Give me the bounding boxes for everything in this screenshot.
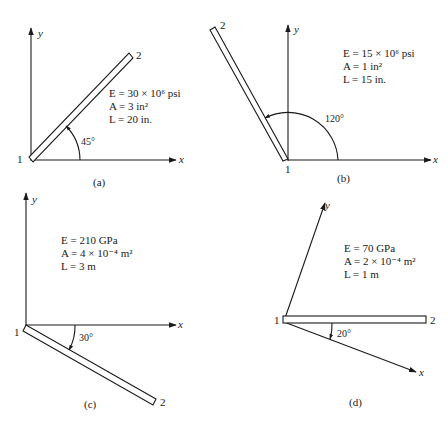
svg-text:E = 30 × 10⁶ psi: E = 30 × 10⁶ psi — [109, 87, 181, 99]
node-2-label: 2 — [136, 49, 142, 61]
svg-text:L = 3 m: L = 3 m — [61, 260, 96, 272]
y-axis — [284, 203, 325, 321]
y-axis-label: y — [37, 27, 43, 39]
bar-element — [210, 27, 288, 161]
x-axis-label: x — [432, 153, 438, 165]
svg-text:A = 1 in²: A = 1 in² — [343, 60, 383, 72]
angle-label: 120° — [325, 113, 344, 124]
svg-text:E = 15 × 10⁶ psi: E = 15 × 10⁶ psi — [343, 47, 415, 59]
node-1-label: 1 — [285, 163, 291, 175]
node-2-label: 2 — [430, 314, 436, 326]
y-axis-label: y — [31, 193, 37, 205]
panel-b: y x 1 2 120° E = 15 × 10⁶ psi A = 1 in² … — [210, 19, 438, 185]
angle-label: 45° — [81, 136, 95, 147]
panel-d: y x 1 2 20° E = 70 GPa A = 2 × 10⁻⁴ m² L… — [274, 199, 436, 409]
panel-c: y x 1 2 30° E = 210 GPa A = 4 × 10⁻⁴ m² … — [14, 193, 183, 411]
node-2-label: 2 — [160, 396, 166, 408]
panel-caption: (a) — [93, 176, 106, 189]
angle-label: 20° — [337, 328, 351, 339]
panel-caption: (c) — [84, 398, 97, 411]
svg-text:A = 4 × 10⁻⁴ m²: A = 4 × 10⁻⁴ m² — [61, 247, 133, 259]
angle-arc — [330, 323, 332, 339]
svg-text:E = 210 GPa: E = 210 GPa — [61, 234, 118, 246]
svg-text:L = 20 in.: L = 20 in. — [109, 113, 152, 125]
svg-text:E = 70 GPa: E = 70 GPa — [344, 242, 395, 254]
angle-arc — [66, 126, 80, 160]
panel-caption: (d) — [349, 396, 362, 409]
panel-a: y x 1 2 45° E = 30 × 10⁶ psi A = 3 in² L… — [17, 27, 184, 189]
node-1-label: 1 — [14, 326, 20, 338]
svg-text:L = 1 m: L = 1 m — [344, 268, 379, 280]
x-axis-label: x — [418, 366, 424, 378]
node-1-label: 1 — [17, 153, 23, 165]
svg-text:A = 2 × 10⁻⁴ m²: A = 2 × 10⁻⁴ m² — [344, 255, 416, 267]
material-properties: E = 70 GPa A = 2 × 10⁻⁴ m² L = 1 m — [344, 242, 416, 280]
material-properties: E = 30 × 10⁶ psi A = 3 in² L = 20 in. — [109, 87, 181, 125]
angle-label: 30° — [79, 332, 93, 343]
y-axis-label: y — [324, 199, 330, 211]
svg-text:A = 3 in²: A = 3 in² — [109, 100, 149, 112]
svg-text:L = 15 in.: L = 15 in. — [343, 73, 386, 85]
material-properties: E = 15 × 10⁶ psi A = 1 in² L = 15 in. — [343, 47, 415, 85]
y-axis-label: y — [293, 23, 299, 35]
node-2-label: 2 — [220, 19, 226, 31]
bar-element-figure: y x 1 2 45° E = 30 × 10⁶ psi A = 3 in² L… — [0, 0, 448, 423]
material-properties: E = 210 GPa A = 4 × 10⁻⁴ m² L = 3 m — [61, 234, 133, 272]
x-axis-label: x — [177, 318, 183, 330]
panel-caption: (b) — [337, 172, 350, 185]
node-1-label: 1 — [274, 314, 280, 326]
x-axis-label: x — [178, 153, 184, 165]
angle-arc — [69, 325, 75, 350]
bar-element — [283, 316, 426, 323]
